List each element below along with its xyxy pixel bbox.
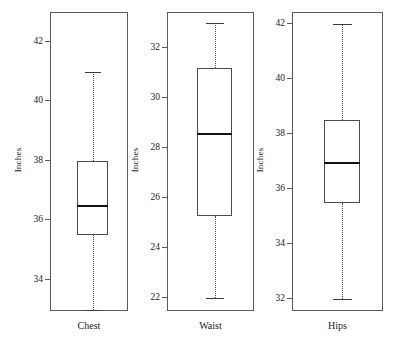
median-line xyxy=(197,133,232,135)
boxplot-panel-hips: 323436384042InchesHips xyxy=(292,12,383,311)
boxplot-panel-waist: 222426283032InchesWaist xyxy=(167,12,254,311)
y-tick-label: 36 xyxy=(34,213,44,226)
lower-whisker-line xyxy=(215,216,216,299)
y-tick-label: 38 xyxy=(34,154,44,167)
y-tick-label: 22 xyxy=(151,291,161,304)
lower-whisker-cap xyxy=(333,299,352,300)
y-tick-label: 26 xyxy=(151,191,161,204)
y-axis-title: Inches xyxy=(255,130,265,190)
y-tick-label: 34 xyxy=(34,273,44,286)
lower-whisker-cap xyxy=(206,298,224,299)
category-label-hips: Hips xyxy=(292,319,383,333)
y-tick-label: 32 xyxy=(151,41,161,54)
y-tick-mark xyxy=(45,41,50,42)
y-tick-mark xyxy=(162,297,167,298)
lower-whisker-line xyxy=(342,203,343,299)
upper-whisker-cap xyxy=(333,24,352,25)
y-tick-mark xyxy=(45,279,50,280)
lower-whisker-cap xyxy=(85,310,101,311)
y-tick-label: 36 xyxy=(276,182,286,195)
y-tick-label: 30 xyxy=(151,91,161,104)
y-tick-label: 28 xyxy=(151,141,161,154)
y-tick-label: 32 xyxy=(276,292,286,305)
y-tick-mark xyxy=(45,160,50,161)
y-tick-mark xyxy=(162,147,167,148)
upper-whisker-line xyxy=(215,23,216,68)
upper-whisker-cap xyxy=(85,72,101,73)
y-tick-mark xyxy=(45,219,50,220)
y-tick-mark xyxy=(287,188,292,189)
y-tick-mark xyxy=(162,47,167,48)
upper-whisker-line xyxy=(93,72,94,161)
median-line xyxy=(77,205,108,207)
iqr-box xyxy=(197,68,232,216)
iqr-box xyxy=(77,161,108,235)
median-line xyxy=(324,162,360,164)
y-tick-label: 42 xyxy=(34,35,44,48)
y-axis-title: Inches xyxy=(13,130,23,190)
y-tick-mark xyxy=(162,197,167,198)
category-label-chest: Chest xyxy=(50,319,128,333)
y-tick-label: 40 xyxy=(276,72,286,85)
y-tick-mark xyxy=(162,97,167,98)
y-tick-label: 38 xyxy=(276,127,286,140)
y-tick-mark xyxy=(287,78,292,79)
y-tick-mark xyxy=(162,247,167,248)
upper-whisker-cap xyxy=(206,23,224,24)
boxplot-panel-chest: 3436384042InchesChest xyxy=(50,12,128,311)
y-axis-title: Inches xyxy=(130,130,140,190)
upper-whisker-line xyxy=(342,24,343,120)
y-tick-label: 40 xyxy=(34,94,44,107)
y-tick-label: 24 xyxy=(151,241,161,254)
lower-whisker-line xyxy=(93,235,94,309)
y-tick-label: 34 xyxy=(276,237,286,250)
y-tick-mark xyxy=(287,133,292,134)
y-tick-mark xyxy=(287,23,292,24)
y-tick-label: 42 xyxy=(276,17,286,30)
category-label-waist: Waist xyxy=(167,319,254,333)
y-tick-mark xyxy=(287,298,292,299)
y-tick-mark xyxy=(287,243,292,244)
y-tick-mark xyxy=(45,100,50,101)
boxplot-figure: 3436384042InchesChest222426283032InchesW… xyxy=(0,0,396,345)
